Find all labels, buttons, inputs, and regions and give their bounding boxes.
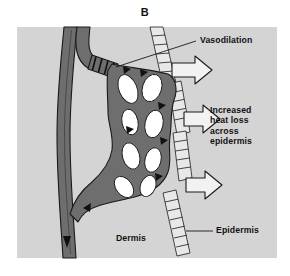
label-dermis: Dermis	[116, 233, 146, 243]
label-increased-heat-loss: Increased heat loss across epidermis	[210, 105, 252, 147]
figure-container: B	[0, 0, 290, 276]
label-epidermis: Epidermis	[216, 225, 259, 235]
label-vasodilation: Vasodilation	[200, 35, 252, 45]
